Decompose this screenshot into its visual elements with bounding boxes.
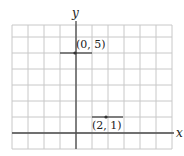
point1-label: (0, 5): [76, 38, 106, 51]
point2-label: (2, 1): [92, 119, 122, 132]
y-axis-label: y: [71, 6, 79, 20]
coordinate-plane: x y (0, 5) (2, 1): [0, 0, 184, 156]
x-axis-label: x: [176, 126, 183, 140]
point1-marker: [73, 51, 76, 54]
